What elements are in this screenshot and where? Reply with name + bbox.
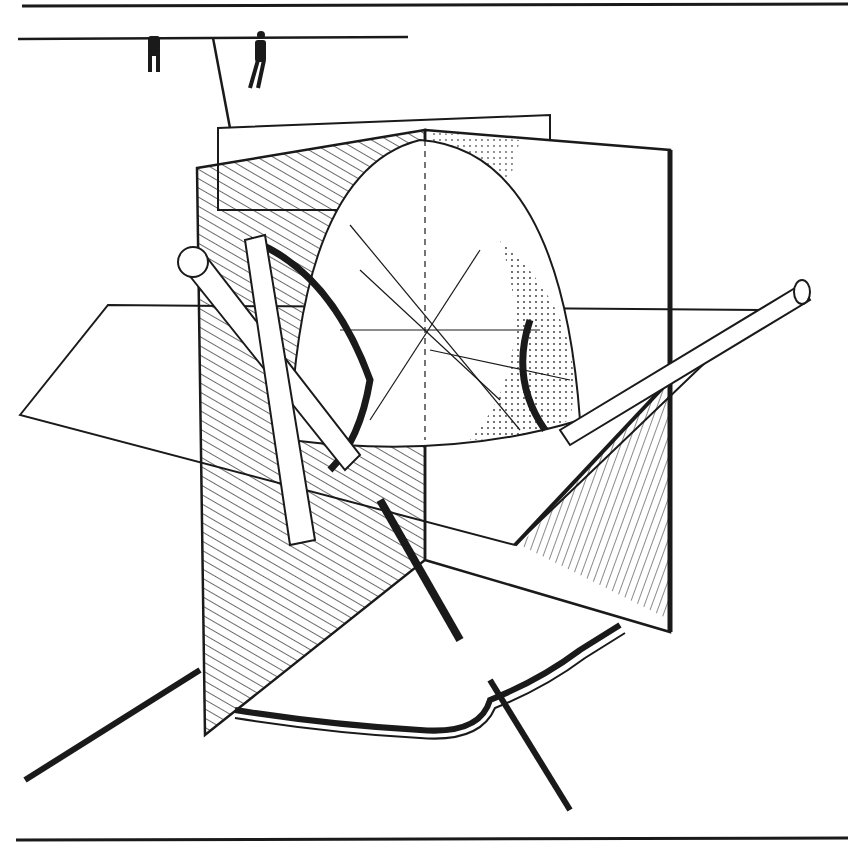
- figure-left: [148, 36, 160, 72]
- figure-right: [250, 31, 266, 88]
- illustration-canvas: [0, 0, 868, 847]
- bottom-rule: [16, 838, 848, 840]
- top-rule: [22, 4, 848, 6]
- line-drawing: [0, 0, 868, 847]
